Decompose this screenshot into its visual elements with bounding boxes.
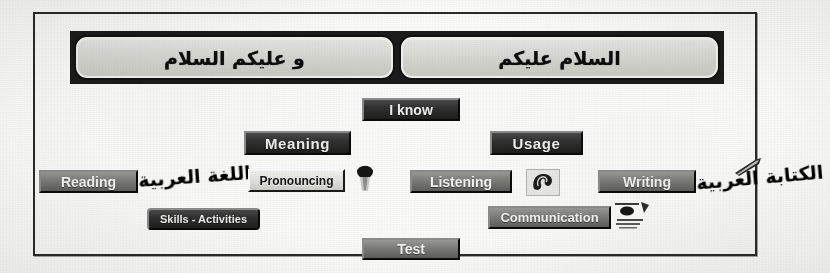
communication-label: Communication — [500, 210, 598, 225]
usage-label: Usage — [512, 135, 560, 152]
greeting-box-salutation[interactable]: السلام عليكم — [399, 35, 720, 80]
ear-icon — [526, 169, 560, 196]
greeting-band: و عليكم السلام السلام عليكم — [70, 31, 724, 84]
writing-button[interactable]: Writing — [598, 170, 696, 193]
test-button[interactable]: Test — [362, 238, 460, 260]
speech-bubbles-icon — [613, 200, 653, 230]
greeting-box-reply[interactable]: و عليكم السلام — [74, 35, 395, 80]
skills-activities-button[interactable]: Skills - Activities — [147, 208, 260, 230]
mouth-speaking-icon — [352, 164, 378, 192]
reading-arabic-script: اللغة العربية — [137, 163, 251, 190]
greeting-reply-text: و عليكم السلام — [164, 47, 305, 69]
i-know-label: I know — [389, 102, 433, 118]
writing-label: Writing — [623, 174, 671, 190]
usage-button[interactable]: Usage — [490, 131, 583, 155]
test-label: Test — [397, 241, 425, 257]
reading-button[interactable]: Reading — [39, 170, 138, 193]
reading-label: Reading — [61, 174, 116, 190]
skills-activities-label: Skills - Activities — [160, 213, 247, 225]
listening-button[interactable]: Listening — [410, 170, 512, 193]
application-frame: و عليكم السلام السلام عليكم I know Meani… — [33, 12, 757, 256]
i-know-button[interactable]: I know — [362, 98, 460, 121]
pen-nib-icon — [735, 157, 763, 177]
greeting-salutation-text: السلام عليكم — [498, 47, 620, 69]
communication-button[interactable]: Communication — [488, 206, 611, 229]
meaning-label: Meaning — [265, 135, 330, 152]
pronouncing-label: Pronouncing — [260, 174, 334, 188]
pronouncing-button[interactable]: Pronouncing — [248, 169, 345, 192]
meaning-button[interactable]: Meaning — [244, 131, 351, 155]
listening-label: Listening — [430, 174, 492, 190]
